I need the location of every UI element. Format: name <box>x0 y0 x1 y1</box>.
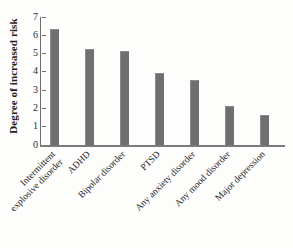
bar <box>225 106 234 145</box>
x-axis-label: Any mood disorder <box>172 149 232 209</box>
x-axis-line <box>40 145 285 147</box>
y-tick: 0 <box>18 140 46 151</box>
y-tick-mark <box>42 71 46 72</box>
y-tick-label: 5 <box>33 47 38 58</box>
bar <box>155 73 164 145</box>
x-axis-label-line: Major depression <box>213 149 267 203</box>
bar <box>190 80 199 145</box>
y-tick: 7 <box>18 12 46 23</box>
y-tick-label: 0 <box>33 139 38 150</box>
x-axis-label-line: explosive disorder <box>8 157 65 214</box>
x-axis-label: Major depression <box>213 149 268 204</box>
bar <box>50 29 59 145</box>
y-tick-label: 6 <box>33 29 38 40</box>
y-tick-label: 3 <box>33 84 38 95</box>
x-axis-label: PTSD <box>138 149 162 173</box>
bar <box>120 51 129 145</box>
y-tick-label: 2 <box>33 102 38 113</box>
x-axis-label: Any anxiety disorder <box>133 149 197 213</box>
x-axis-label: Bipolar disorder <box>76 149 128 201</box>
y-tick-label: 1 <box>33 120 38 131</box>
x-axis-label: Intermittentexplosive disorder <box>0 149 65 214</box>
y-tick-mark <box>42 90 46 91</box>
bar <box>260 115 269 145</box>
x-axis-label-line: Any anxiety disorder <box>133 149 197 213</box>
y-tick: 4 <box>18 66 46 77</box>
y-tick-label: 4 <box>33 65 38 76</box>
y-tick: 5 <box>18 48 46 59</box>
y-tick-mark <box>42 126 46 127</box>
bar <box>85 49 94 145</box>
x-axis-label-line: PTSD <box>138 149 162 173</box>
y-tick-mark <box>42 35 46 36</box>
y-tick-mark <box>42 53 46 54</box>
bar-chart: Degree of increased risk 76543210 Interm… <box>0 0 293 248</box>
x-axis-label-line: Intermittent <box>18 149 57 188</box>
x-axis-label-line: ADHD <box>65 149 91 175</box>
x-axis-label-line: Any mood disorder <box>172 149 231 208</box>
x-axis-label-line: Bipolar disorder <box>76 149 127 200</box>
y-tick: 3 <box>18 85 46 96</box>
y-tick: 2 <box>18 103 46 114</box>
plot-area: 76543210 <box>40 17 285 145</box>
y-tick-mark <box>42 108 46 109</box>
x-axis-label: ADHD <box>65 149 92 176</box>
y-tick-mark <box>42 17 46 18</box>
y-tick: 1 <box>18 121 46 132</box>
y-tick-label: 7 <box>33 11 38 22</box>
y-tick: 6 <box>18 30 46 41</box>
